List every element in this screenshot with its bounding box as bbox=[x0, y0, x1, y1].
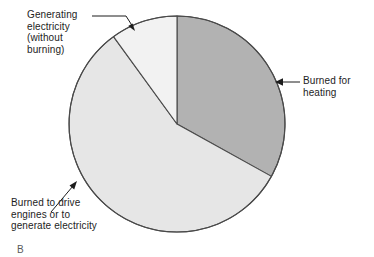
callout-line: burning) bbox=[27, 44, 77, 56]
callout-burned-to-drive-engines: Burned to drive engines or to generate e… bbox=[11, 197, 97, 232]
callout-line: engines or to bbox=[11, 209, 97, 221]
leader-burned-for-heating bbox=[275, 78, 300, 85]
callout-line: generate electricity bbox=[11, 220, 97, 232]
callout-generating-electricity: Generating electricity (without burning) bbox=[27, 9, 77, 55]
callout-line: electricity bbox=[27, 21, 77, 33]
callout-line: Burned to drive bbox=[11, 197, 97, 209]
callout-line: heating bbox=[303, 87, 351, 99]
callout-line: Generating bbox=[27, 9, 77, 21]
callout-burned-for-heating: Burned for heating bbox=[303, 75, 351, 98]
callout-line: (without bbox=[27, 32, 77, 44]
figure-caption-fragment: B bbox=[17, 244, 24, 255]
pie-chart-figure: Generating electricity (without burning)… bbox=[0, 0, 374, 257]
callout-line: Burned for bbox=[303, 75, 351, 87]
